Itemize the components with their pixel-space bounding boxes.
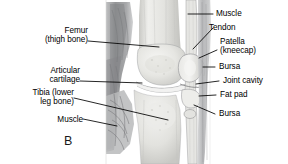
label-muscle-right: Muscle bbox=[216, 9, 286, 18]
label-patella-line2: (kneecap) bbox=[220, 46, 288, 55]
knee-anatomy-figure: Femur (thigh bone) Articular cartilage T… bbox=[0, 0, 288, 164]
panel-letter-b: B bbox=[64, 134, 72, 148]
label-patella-line1: Patella bbox=[220, 37, 288, 46]
label-articular-cartilage-line1: Articular bbox=[6, 66, 80, 75]
label-articular-cartilage: Articular cartilage bbox=[6, 66, 80, 85]
label-bursa-lower: Bursa bbox=[219, 109, 279, 118]
label-bursa-lower-line1: Bursa bbox=[219, 109, 279, 118]
label-muscle-right-line1: Muscle bbox=[216, 9, 286, 18]
label-tibia-line1: Tibia (lower bbox=[2, 88, 74, 97]
anterior-knee-structures bbox=[178, 0, 211, 164]
label-fat-pad-line1: Fat pad bbox=[220, 90, 282, 99]
label-tibia: Tibia (lower leg bone) bbox=[2, 88, 74, 107]
label-muscle-left-line1: Muscle bbox=[20, 115, 83, 124]
left-lower-muscle bbox=[106, 90, 134, 154]
tibia-bone bbox=[134, 90, 181, 164]
label-fat-pad: Fat pad bbox=[220, 90, 282, 99]
label-muscle-left: Muscle bbox=[20, 115, 83, 124]
label-joint-cavity: Joint cavity bbox=[223, 76, 287, 85]
femur-bone bbox=[137, 0, 185, 85]
label-bursa-upper-line1: Bursa bbox=[219, 62, 279, 71]
label-bursa-upper: Bursa bbox=[219, 62, 279, 71]
label-tendon: Tendon bbox=[209, 23, 281, 32]
label-tibia-line2: leg bone) bbox=[2, 97, 74, 106]
label-articular-cartilage-line2: cartilage bbox=[6, 75, 80, 84]
label-patella: Patella (kneecap) bbox=[220, 37, 288, 56]
label-femur: Femur (thigh bone) bbox=[12, 26, 88, 45]
label-tendon-line1: Tendon bbox=[209, 23, 281, 32]
label-joint-cavity-line1: Joint cavity bbox=[223, 76, 287, 85]
label-femur-line1: Femur bbox=[12, 26, 88, 35]
label-femur-line2: (thigh bone) bbox=[12, 35, 88, 44]
